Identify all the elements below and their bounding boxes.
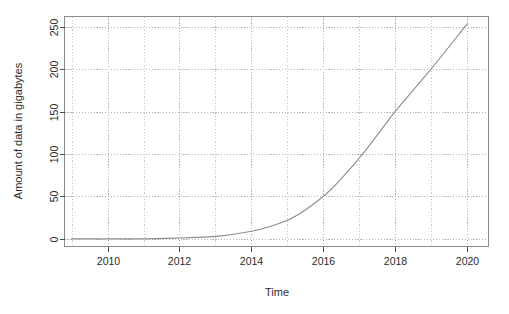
y-tick-label-150: 150 bbox=[48, 104, 60, 122]
x-tick-label-2018: 2018 bbox=[384, 255, 408, 267]
y-axis-title: Amount of data in gigabytes bbox=[12, 62, 24, 199]
x-tick-label-2010: 2010 bbox=[97, 255, 121, 267]
y-tick-label-200: 200 bbox=[48, 61, 60, 79]
y-tick-label-250: 250 bbox=[48, 19, 60, 37]
y-tick-label-100: 100 bbox=[48, 146, 60, 164]
figure-background bbox=[0, 0, 509, 314]
y-tick-label-0: 0 bbox=[48, 236, 60, 242]
x-tick-label-2016: 2016 bbox=[312, 255, 336, 267]
y-tick-label-50: 50 bbox=[48, 191, 60, 203]
x-tick-label-2014: 2014 bbox=[240, 255, 264, 267]
x-axis-title: Time bbox=[265, 286, 289, 298]
x-tick-label-2020: 2020 bbox=[456, 255, 480, 267]
x-tick-label-2012: 2012 bbox=[168, 255, 192, 267]
line-chart-figure: 050100150200250 201020122014201620182020… bbox=[0, 0, 509, 314]
